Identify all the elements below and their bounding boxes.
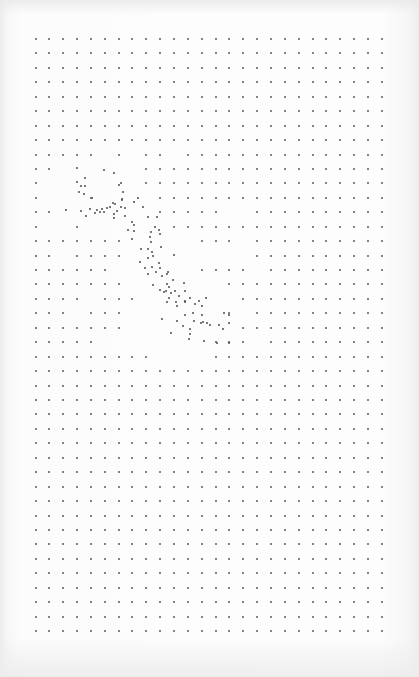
- grid-dot: [90, 385, 92, 387]
- figure-dot: [228, 314, 230, 316]
- grid-dot: [118, 38, 120, 40]
- grid-dot: [339, 399, 341, 401]
- grid-dot: [381, 486, 383, 488]
- grid-dot: [76, 630, 78, 632]
- figure-dot: [122, 191, 124, 193]
- grid-dot: [367, 312, 369, 314]
- grid-dot: [187, 543, 189, 545]
- grid-dot: [228, 240, 230, 242]
- grid-dot: [353, 616, 355, 618]
- grid-dot: [159, 96, 161, 98]
- grid-dot: [104, 529, 106, 531]
- grid-dot: [201, 500, 203, 502]
- grid-dot: [381, 572, 383, 574]
- grid-dot: [62, 486, 64, 488]
- grid-dot: [312, 269, 314, 271]
- grid-dot: [48, 139, 50, 141]
- grid-dot: [48, 442, 50, 444]
- grid-dot: [325, 96, 327, 98]
- grid-dot: [284, 240, 286, 242]
- grid-dot: [48, 558, 50, 560]
- grid-dot: [145, 500, 147, 502]
- grid-dot: [353, 154, 355, 156]
- grid-dot: [35, 442, 37, 444]
- grid-dot: [312, 399, 314, 401]
- grid-dot: [76, 442, 78, 444]
- grid-dot: [48, 630, 50, 632]
- grid-dot: [242, 457, 244, 459]
- grid-dot: [90, 486, 92, 488]
- grid-dot: [270, 139, 272, 141]
- grid-dot: [256, 442, 258, 444]
- grid-dot: [325, 182, 327, 184]
- grid-dot: [173, 168, 175, 170]
- grid-dot: [62, 81, 64, 83]
- grid-dot: [159, 500, 161, 502]
- grid-dot: [353, 587, 355, 589]
- grid-dot: [76, 370, 78, 372]
- grid-dot: [173, 515, 175, 517]
- grid-dot: [339, 197, 341, 199]
- grid-dot: [298, 182, 300, 184]
- grid-dot: [228, 486, 230, 488]
- grid-dot: [201, 543, 203, 545]
- grid-dot: [35, 529, 37, 531]
- grid-dot: [270, 38, 272, 40]
- grid-dot: [339, 341, 341, 343]
- grid-dot: [270, 515, 272, 517]
- grid-dot: [104, 110, 106, 112]
- grid-dot: [325, 442, 327, 444]
- grid-dot: [35, 67, 37, 69]
- figure-dot: [201, 314, 203, 316]
- grid-dot: [173, 81, 175, 83]
- grid-dot: [145, 515, 147, 517]
- grid-dot: [381, 515, 383, 517]
- grid-dot: [228, 197, 230, 199]
- grid-dot: [284, 457, 286, 459]
- grid-dot: [201, 226, 203, 228]
- grid-dot: [35, 399, 37, 401]
- grid-dot: [118, 529, 120, 531]
- grid-dot: [256, 96, 258, 98]
- grid-dot: [284, 283, 286, 285]
- grid-dot: [90, 601, 92, 603]
- grid-dot: [312, 211, 314, 213]
- grid-dot: [242, 529, 244, 531]
- figure-dot: [113, 213, 115, 215]
- grid-dot: [353, 52, 355, 54]
- grid-dot: [35, 486, 37, 488]
- grid-dot: [118, 399, 120, 401]
- grid-dot: [35, 572, 37, 574]
- grid-dot: [284, 543, 286, 545]
- grid-dot: [35, 226, 37, 228]
- grid-dot: [381, 413, 383, 415]
- figure-dot: [189, 328, 191, 330]
- grid-dot: [48, 356, 50, 358]
- grid-dot: [367, 240, 369, 242]
- grid-dot: [90, 67, 92, 69]
- grid-dot: [284, 81, 286, 83]
- grid-dot: [48, 125, 50, 127]
- grid-dot: [242, 182, 244, 184]
- grid-dot: [256, 399, 258, 401]
- grid-dot: [201, 385, 203, 387]
- grid-dot: [201, 52, 203, 54]
- grid-dot: [131, 413, 133, 415]
- grid-dot: [104, 385, 106, 387]
- figure-dot: [152, 284, 154, 286]
- grid-dot: [118, 442, 120, 444]
- grid-dot: [325, 341, 327, 343]
- grid-dot: [35, 255, 37, 257]
- grid-dot: [339, 81, 341, 83]
- grid-dot: [76, 385, 78, 387]
- grid-dot: [325, 385, 327, 387]
- grid-dot: [367, 486, 369, 488]
- grid-dot: [270, 240, 272, 242]
- grid-dot: [215, 442, 217, 444]
- grid-dot: [381, 312, 383, 314]
- grid-dot: [35, 558, 37, 560]
- grid-dot: [187, 616, 189, 618]
- grid-dot: [298, 67, 300, 69]
- grid-dot: [381, 52, 383, 54]
- grid-dot: [118, 240, 120, 242]
